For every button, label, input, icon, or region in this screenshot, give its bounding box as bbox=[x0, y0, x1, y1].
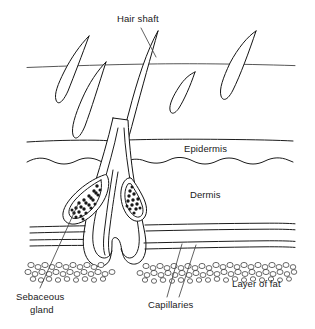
capillary-band-1-upper-left bbox=[30, 226, 85, 227]
epidermis-upper-line-left bbox=[27, 140, 110, 142]
epidermis-lower-wavy-line bbox=[27, 157, 293, 164]
capillary-band-1-lower-right bbox=[146, 229, 295, 231]
label-sebaceous-gland-line1: Sebaceous bbox=[16, 291, 65, 302]
hair-shaft-4 bbox=[170, 72, 195, 113]
label-hair-shaft: Hair shaft bbox=[117, 13, 159, 24]
fat-cell-row-2 bbox=[25, 269, 297, 277]
fat-cell-row-1 bbox=[28, 262, 296, 270]
capillary-band-2-upper-right bbox=[144, 241, 295, 243]
capillary-band-2-lower-left bbox=[30, 245, 83, 246]
capillary-band-1-lower-left bbox=[30, 232, 85, 233]
epidermis-layer-group bbox=[27, 139, 293, 164]
capillary-band-2-upper-left bbox=[30, 239, 83, 240]
label-layer-of-fat: Layer of fat bbox=[232, 278, 281, 289]
skin-cross-section-diagram: Hair shaft Epidermis Dermis Sebaceous gl… bbox=[0, 0, 315, 329]
capillary-band-2-lower-right bbox=[145, 247, 295, 249]
label-capillaries: Capillaries bbox=[148, 299, 194, 310]
hair-shaft-2 bbox=[72, 62, 106, 138]
label-sebaceous-gland-line2: gland bbox=[30, 304, 54, 315]
hair-shaft-1 bbox=[55, 36, 89, 103]
capillary-band-1-upper-right bbox=[145, 223, 295, 225]
epidermis-upper-line-right bbox=[127, 139, 293, 141]
label-dermis: Dermis bbox=[190, 189, 221, 200]
hair-shaft-5 bbox=[220, 31, 256, 99]
skin-diagram-canvas: Hair shaft Epidermis Dermis Sebaceous gl… bbox=[0, 0, 315, 329]
capillary-bands-group bbox=[30, 223, 295, 249]
label-epidermis: Epidermis bbox=[184, 143, 227, 154]
